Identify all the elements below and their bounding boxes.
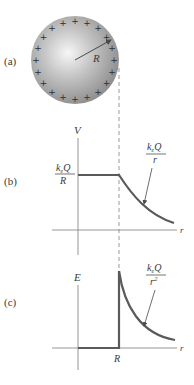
plus-charge-icon: + <box>34 43 42 53</box>
plus-charge-icon: + <box>34 67 42 77</box>
plus-charge-icon: + <box>94 87 102 97</box>
plus-charge-icon: + <box>110 55 118 65</box>
plateau-label: keQ R <box>55 162 75 186</box>
panel-a: (a) ++++++++++++++++++++ R <box>4 16 119 104</box>
plus-charge-icon: + <box>48 23 56 33</box>
plus-charge-icon: + <box>71 16 79 26</box>
curve-label-c: keQ r2 <box>146 262 166 287</box>
plus-charge-icon: + <box>108 43 116 53</box>
plus-charge-icon: + <box>103 78 111 88</box>
svg-text:r2: r2 <box>150 275 158 287</box>
plus-charge-icon: + <box>108 67 116 77</box>
plus-charge-icon: + <box>83 92 91 102</box>
plus-charge-icon: + <box>59 92 67 102</box>
plus-charge-icon: + <box>48 87 56 97</box>
panel-c-label: (c) <box>4 296 17 309</box>
r-axis-label-b: r <box>180 225 184 235</box>
diagram-canvas: (a) ++++++++++++++++++++ R (b) V r keQ R… <box>0 0 194 385</box>
panel-b-label: (b) <box>4 175 17 188</box>
field-outside-curve <box>119 271 175 340</box>
svg-text:R: R <box>59 175 66 186</box>
plus-charge-icon: + <box>83 18 91 28</box>
pointer-arrow-b-icon <box>144 168 152 204</box>
v-axis-label: V <box>74 124 82 136</box>
pointer-arrow-c-icon <box>144 290 155 326</box>
plus-charge-icon: + <box>59 18 67 28</box>
panel-a-label: (a) <box>4 55 17 68</box>
svg-text:r: r <box>153 154 157 165</box>
panel-b: (b) V r keQ R keQ r <box>4 124 184 255</box>
e-axis-label: E <box>73 271 81 283</box>
plus-charge-icon: + <box>40 32 48 42</box>
plus-charge-icon: + <box>40 78 48 88</box>
curve-label-b: keQ r <box>146 141 166 165</box>
r-axis-label-c: r <box>180 343 184 353</box>
panel-c: (c) E r R keQ r2 <box>4 262 184 370</box>
plus-charge-icon: + <box>94 23 102 33</box>
plus-charge-icon: + <box>71 94 79 104</box>
field-inside-curve <box>78 271 119 348</box>
svg-text:keQ: keQ <box>147 141 162 153</box>
radius-label: R <box>92 52 100 64</box>
svg-text:keQ: keQ <box>56 162 71 174</box>
r-tick-label: R <box>113 353 120 364</box>
potential-curve <box>78 175 174 223</box>
svg-text:keQ: keQ <box>147 262 162 274</box>
plus-charge-icon: + <box>32 55 40 65</box>
